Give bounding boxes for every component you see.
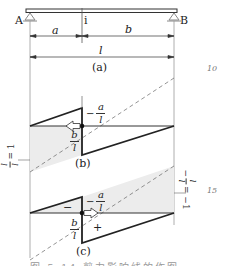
panel-a-label: (a): [92, 62, 107, 73]
minus-sign: −: [181, 169, 191, 177]
panel-b-influence-line: [30, 78, 174, 172]
support-a-label: A: [15, 15, 23, 26]
margin-number-15: 15: [207, 186, 217, 195]
denominator: l: [73, 143, 76, 153]
denominator: l: [99, 115, 102, 125]
panel-b-right-ordinate: b l: [70, 130, 79, 153]
panel-c-side-annotation: − l l = −1: [177, 169, 196, 209]
influence-line-diagram: [0, 0, 231, 266]
panel-c-label: (c): [76, 246, 91, 257]
support-a-icon: [23, 13, 37, 21]
section-i-label: i: [84, 15, 88, 26]
numerator: a: [98, 190, 104, 200]
minus-sign: −: [86, 108, 94, 119]
numerator: l: [1, 163, 9, 166]
figure-caption: 图 5-14 剪力影响线的作图: [30, 259, 179, 266]
numerator: b: [71, 218, 77, 228]
dimension-l-label: l: [99, 45, 103, 56]
panel-b-left-ordinate: − a l: [86, 102, 105, 125]
denominator: l: [73, 231, 76, 241]
denominator: l: [12, 163, 20, 166]
dimension-b-label: b: [125, 24, 132, 35]
equals-minus-one: = −1: [181, 186, 191, 210]
numerator: l: [188, 180, 196, 183]
negative-region-sign: −: [63, 202, 72, 213]
support-b-label: B: [180, 15, 188, 26]
numerator: b: [71, 130, 77, 140]
panel-b-side-annotation: l l = 1: [1, 143, 20, 167]
support-b-icon: [167, 13, 181, 21]
panel-c-right-ordinate: b l: [70, 218, 79, 241]
denominator: l: [99, 203, 102, 213]
panel-c-left-ordinate: − a l: [86, 190, 105, 213]
equals-one: = 1: [5, 143, 15, 159]
panel-c-influence-line: [30, 166, 174, 260]
numerator: a: [98, 102, 104, 112]
margin-number-10: 10: [207, 64, 217, 73]
panel-b-label: (b): [75, 158, 91, 169]
minus-sign: −: [86, 196, 94, 207]
denominator: l: [177, 180, 185, 183]
dimension-a-label: a: [52, 25, 59, 36]
positive-region-sign: +: [93, 222, 102, 233]
beam: [26, 9, 177, 13]
